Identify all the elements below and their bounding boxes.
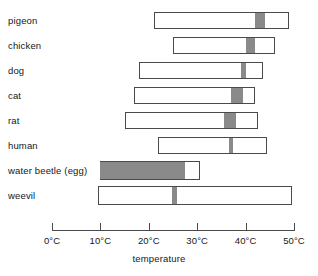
body-temperature-marker <box>255 13 265 28</box>
axis-tick-label: 20°C <box>138 235 160 246</box>
axis-tick <box>100 223 101 231</box>
row-track <box>0 83 318 108</box>
row-track <box>0 33 318 58</box>
axis-tick <box>294 223 295 231</box>
row-track <box>0 8 318 33</box>
row-track <box>0 108 318 133</box>
axis-line <box>52 230 294 231</box>
body-temperature-marker <box>229 138 234 153</box>
body-temperature-marker <box>241 63 246 78</box>
chart-row: cat <box>0 83 318 108</box>
chart-row: pigeon <box>0 8 318 33</box>
chart-row: water beetle (egg) <box>0 158 318 183</box>
axis-tick <box>149 223 150 231</box>
range-bar <box>98 186 292 205</box>
axis-tick-label: 30°C <box>186 235 208 246</box>
axis-title: temperature <box>0 253 318 264</box>
x-axis: 0°C10°C20°C30°C40°C50°C temperature <box>0 222 318 276</box>
range-bar <box>154 12 290 29</box>
body-temperature-marker <box>172 187 177 204</box>
axis-tick-label: 10°C <box>90 235 112 246</box>
axis-tick-label: 0°C <box>44 235 60 246</box>
temperature-range-chart: pigeonchickendogcatrathumanwater beetle … <box>0 0 318 276</box>
chart-row: chicken <box>0 33 318 58</box>
chart-row: rat <box>0 108 318 133</box>
row-track <box>0 183 318 208</box>
chart-row: dog <box>0 58 318 83</box>
row-track <box>0 58 318 83</box>
axis-tick-label: 50°C <box>283 235 305 246</box>
body-temperature-marker <box>246 38 256 53</box>
row-track <box>0 158 318 183</box>
axis-tick <box>52 223 53 231</box>
axis-tick <box>246 223 247 231</box>
range-bar <box>134 87 255 104</box>
chart-row: weevil <box>0 183 318 208</box>
range-bar <box>139 62 262 79</box>
row-track <box>0 133 318 158</box>
range-bar <box>100 161 199 180</box>
body-temperature-marker <box>224 113 236 128</box>
body-temperature-marker <box>231 88 243 103</box>
range-bar <box>173 37 275 54</box>
axis-tick <box>197 223 198 231</box>
chart-row: human <box>0 133 318 158</box>
range-bar <box>158 137 267 154</box>
axis-tick-label: 40°C <box>235 235 257 246</box>
range-fill <box>100 162 185 179</box>
range-bar <box>125 112 258 129</box>
